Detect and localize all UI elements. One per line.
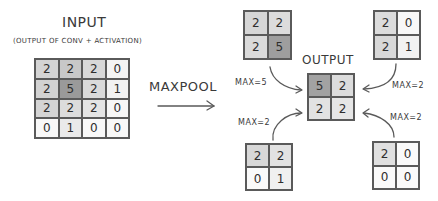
right-arrow-icon — [158, 101, 214, 110]
curved-arrow-bottom-right-icon — [363, 109, 394, 137]
curved-arrow-top-left-icon — [270, 67, 302, 93]
arrows-layer — [0, 0, 438, 201]
curved-arrow-top-right-icon — [363, 64, 396, 92]
curved-arrow-bottom-left-icon — [273, 109, 302, 140]
